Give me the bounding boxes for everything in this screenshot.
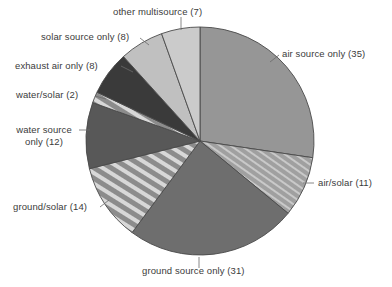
pie-label-ground-source-only: ground source only (31) [142,265,245,277]
pie-label-air-solar: air/solar (11) [318,177,372,189]
pie-label-water-source-only-line2: only (12) [25,136,63,147]
pie-label-air-source-only: air source only (35) [282,48,365,60]
pie-label-water-source-only-line1: water source [16,124,72,135]
pie-chart: other multisource (7) solar source only … [0,0,392,287]
pie-label-water-solar: water/solar (2) [16,89,78,101]
pie-slice-air-source-only[interactable] [200,27,314,158]
pie-label-ground-solar: ground/solar (14) [13,201,87,213]
pie-slices [86,27,314,255]
pie-label-exhaust-air-only: exhaust air only (8) [15,60,98,72]
pie-label-solar-source-only: solar source only (8) [41,31,129,43]
pie-label-water-source-only: water source only (12) [10,124,78,147]
pie-label-other-multisource: other multisource (7) [113,6,202,18]
